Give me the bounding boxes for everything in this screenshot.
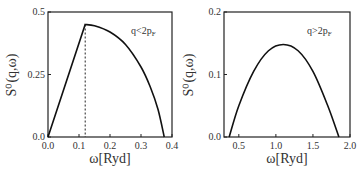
right-annotation: q>2pF [307, 25, 332, 38]
left-curve [48, 25, 164, 138]
x-tick-label: 0.1 [73, 140, 86, 151]
left-plot: 0.00.10.20.30.4 0.00.250.5 q<2pF ω[Ryd] … [4, 6, 178, 166]
right-y-label: S⁰(q,ω) [181, 53, 197, 96]
left-x-label: ω[Ryd] [89, 151, 130, 166]
x-tick-label: 1.5 [307, 140, 320, 151]
x-tick-label: 1.0 [270, 140, 283, 151]
x-tick-label: 0.2 [104, 140, 117, 151]
x-tick-label: 0.5 [233, 140, 246, 151]
figure: 0.00.10.20.30.4 0.00.250.5 q<2pF ω[Ryd] … [0, 0, 361, 174]
x-tick-label: 2.0 [344, 140, 357, 151]
left-y-label: S⁰(q,ω) [4, 53, 20, 96]
right-curve [229, 45, 339, 138]
right-x-label: ω[Ryd] [266, 151, 307, 166]
y-tick-label: 0.5 [33, 6, 46, 17]
y-tick-label: 0.0 [209, 131, 222, 142]
right-plot: 0.51.01.52.0 0.00.10.2 q>2pF ω[Ryd] S⁰(q… [181, 6, 356, 166]
y-tick-label: 0.25 [28, 69, 46, 80]
x-tick-label: 0.4 [166, 140, 179, 151]
y-tick-label: 0.0 [33, 131, 46, 142]
x-tick-label: 0.3 [135, 140, 148, 151]
left-annotation: q<2pF [131, 25, 156, 38]
y-tick-label: 0.1 [209, 69, 222, 80]
y-tick-label: 0.2 [209, 6, 222, 17]
